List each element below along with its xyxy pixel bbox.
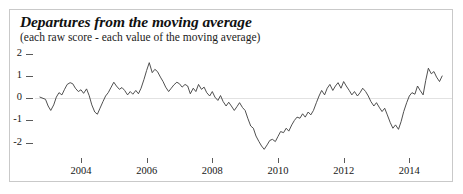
y-axis-tick [26, 54, 33, 55]
x-axis-label: 2008 [192, 165, 232, 176]
y-axis-label: -2 [4, 136, 22, 147]
chart-subtitle: (each raw score - each value of the movi… [20, 31, 260, 43]
x-axis-tick [409, 158, 410, 163]
x-axis-label: 2014 [389, 165, 429, 176]
zero-reference-line [35, 98, 452, 99]
y-axis-tick [26, 76, 33, 77]
x-axis-tick [278, 158, 279, 163]
chart-title: Departures from the moving average [20, 13, 252, 31]
x-axis-tick [81, 158, 82, 163]
y-axis-label: -1 [4, 113, 22, 124]
x-axis-label: 2004 [61, 165, 101, 176]
x-axis-label: 2006 [127, 165, 167, 176]
y-axis-label: 1 [4, 69, 22, 80]
x-axis-tick [344, 158, 345, 163]
y-axis-tick [26, 143, 33, 144]
y-axis-tick [26, 98, 33, 99]
x-axis-label: 2012 [324, 165, 364, 176]
x-axis-tick [147, 158, 148, 163]
x-axis-label: 2010 [258, 165, 298, 176]
y-axis-label: 0 [4, 91, 22, 102]
y-axis-label: 2 [4, 47, 22, 58]
y-axis-tick [26, 120, 33, 121]
chart-figure: Departures from the moving average (each… [0, 0, 463, 194]
x-axis-tick [212, 158, 213, 163]
